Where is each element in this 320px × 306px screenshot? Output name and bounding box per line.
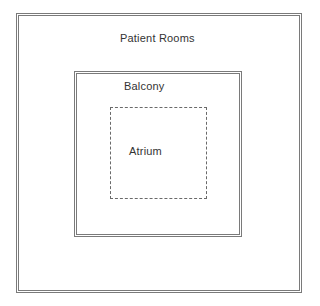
balcony-label: Balcony	[124, 80, 165, 92]
patient-rooms-label: Patient Rooms	[120, 32, 195, 44]
atrium-label: Atrium	[129, 145, 162, 157]
